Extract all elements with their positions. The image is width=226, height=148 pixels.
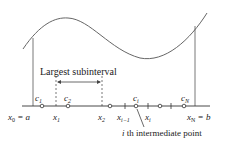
xi-label: xi	[144, 112, 151, 123]
largest-subinterval-label: Largest subinterval	[40, 66, 117, 77]
point-3	[108, 104, 112, 108]
ci-label: ci	[133, 93, 139, 104]
c1-point	[40, 104, 44, 108]
cN-label: cN	[181, 93, 190, 104]
largest-subinterval-arrow	[57, 80, 101, 84]
xN-label: xN = b	[186, 112, 211, 123]
intermediate-point-label: i th intermediate point	[122, 128, 202, 138]
intermediate-point-pointer	[137, 109, 144, 127]
c2-point	[66, 104, 70, 108]
riemann-sum-diagram: Largest subinterval c1 c2 ci cN x0 = a x…	[0, 0, 226, 148]
x1-label: x1	[52, 112, 60, 123]
point-5	[158, 104, 162, 108]
x2-label: x2	[97, 112, 105, 123]
xi-1-label: xi−1	[116, 112, 130, 123]
ci-point	[134, 104, 138, 108]
function-curve	[23, 13, 207, 59]
x0-label: x0 = a	[7, 112, 31, 123]
c1-label: c1	[35, 93, 42, 104]
cN-point	[182, 104, 186, 108]
c2-label: c2	[64, 93, 71, 104]
